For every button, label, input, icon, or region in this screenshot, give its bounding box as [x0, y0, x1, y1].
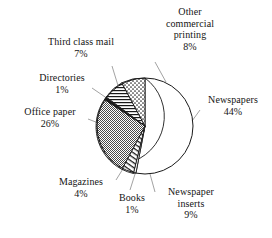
label-name: Directories	[22, 72, 102, 84]
slice-label-newspapers: Newspapers 44%	[196, 94, 270, 117]
slice-label-books: Books 1%	[108, 192, 156, 215]
label-percent: 8%	[150, 41, 230, 53]
slice-label-third-class-mail: Third class mail 7%	[30, 36, 132, 59]
label-percent: 9%	[154, 209, 228, 221]
label-name: Office paper	[4, 106, 96, 118]
label-percent: 26%	[4, 118, 96, 130]
label-line-1: Newspaper	[154, 186, 228, 198]
slice-label-directories: Directories 1%	[22, 72, 102, 95]
label-name: Magazines	[42, 176, 120, 188]
label-line-2: inserts	[154, 198, 228, 210]
label-name: Books	[108, 192, 156, 204]
label-line-1: Other	[150, 6, 230, 18]
label-line-3: printing	[150, 29, 230, 41]
slice-label-newspaper-inserts: Newspaper inserts 9%	[154, 186, 228, 221]
slice-label-office-paper: Office paper 26%	[4, 106, 96, 129]
pie-chart: Other commercial printing 8% Third class…	[0, 0, 272, 238]
pie-slices	[96, 78, 193, 174]
label-percent: 1%	[108, 204, 156, 216]
label-percent: 44%	[196, 106, 270, 118]
label-name: Third class mail	[30, 36, 132, 48]
label-percent: 1%	[22, 84, 102, 96]
label-line-2: commercial	[150, 18, 230, 30]
label-percent: 7%	[30, 48, 132, 60]
slice-label-other-commercial-printing: Other commercial printing 8%	[150, 6, 230, 52]
label-name: Newspapers	[196, 94, 270, 106]
